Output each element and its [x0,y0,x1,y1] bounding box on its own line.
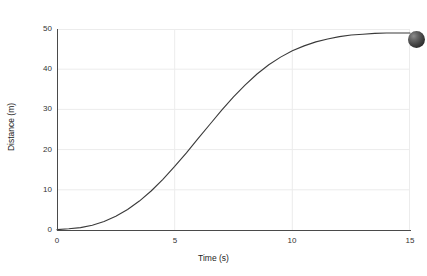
x-tick-10: 10 [282,237,302,245]
x-tick-15: 15 [400,237,420,245]
ball-marker-icon [408,31,425,48]
y-axis-title: Distance (m) [6,77,16,177]
chart-figure: 50 40 30 20 10 0 0 5 10 15 Distance (m) … [0,0,427,276]
x-axis-title: Time (s) [0,253,427,263]
x-tick-5: 5 [165,237,185,245]
x-axis-tick-labels: 0 5 10 15 [0,0,427,276]
x-tick-0: 0 [47,237,67,245]
